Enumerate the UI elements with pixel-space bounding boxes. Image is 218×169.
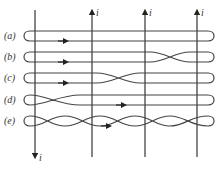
loop-label-a: (a) — [4, 30, 16, 42]
wire-3: i — [145, 7, 152, 157]
loop-label-c: (c) — [4, 72, 16, 84]
loop-label-e: (e) — [4, 115, 16, 127]
wire-3-current-label: i — [149, 7, 152, 18]
wire-4-current-label: i — [201, 7, 204, 18]
wire-4: i — [197, 7, 204, 157]
loop-a — [24, 31, 214, 41]
wire-2: i — [92, 7, 99, 157]
wire-1: i — [35, 10, 42, 163]
loop-label-d: (d) — [4, 94, 16, 106]
loop-wire-diagram: (a) (b) (c) (d) (e) i i i i — [0, 0, 218, 169]
wire-1-current-label: i — [39, 152, 42, 163]
loop-label-b: (b) — [4, 51, 16, 63]
wire-2-current-label: i — [96, 7, 99, 18]
loop-b — [24, 52, 214, 62]
loop-d — [24, 95, 214, 105]
loop-e — [24, 116, 214, 126]
loop-c — [24, 73, 214, 83]
